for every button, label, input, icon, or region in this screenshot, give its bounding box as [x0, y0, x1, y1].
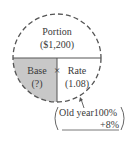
multiply-operator-icon: × [54, 64, 60, 76]
arrow-head-icon [79, 97, 83, 102]
rate-value: (1.08) [65, 78, 89, 90]
base-value: (?) [31, 78, 42, 90]
portion-value: ($1,200) [40, 39, 74, 51]
rate-label: Rate [68, 65, 87, 76]
portion-label: Portion [42, 26, 71, 37]
base-label: Base [27, 65, 47, 76]
left-paren-bracket [55, 107, 58, 130]
note-line1: Old year100% [59, 107, 117, 118]
portion-base-rate-diagram: Portion ($1,200) Base (?) × Rate (1.08) … [0, 0, 126, 142]
note-line2: +8% [100, 119, 119, 130]
right-paren-bracket [121, 107, 124, 130]
